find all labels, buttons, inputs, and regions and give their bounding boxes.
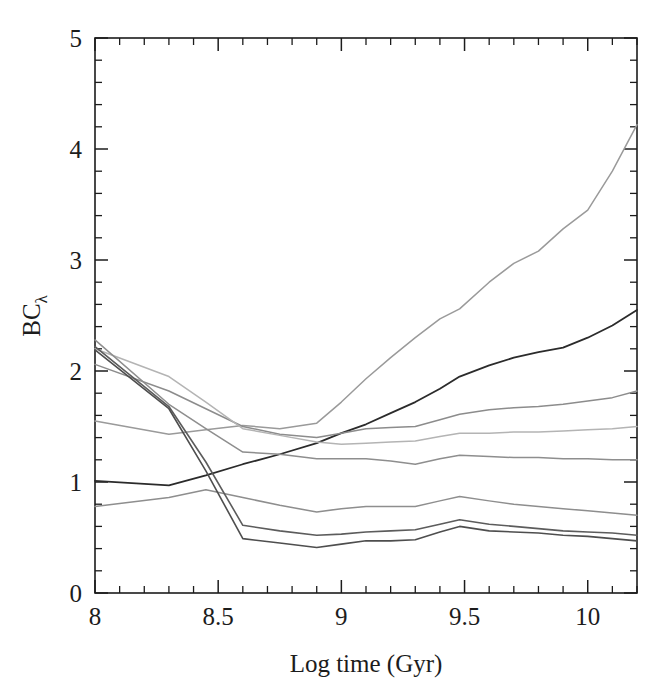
x-axis-label: Log time (Gyr): [290, 650, 443, 678]
y-tick-label: 3: [70, 247, 83, 274]
x-tick-label: 10: [575, 603, 600, 630]
figure-container: 88.599.510 012345 Log time (Gyr) BCλ: [0, 0, 665, 689]
y-tick-label: 2: [70, 358, 83, 385]
series-line: [95, 364, 637, 437]
x-tick-labels: 88.599.510: [89, 603, 600, 630]
y-axis-label: BCλ: [18, 294, 51, 336]
series-line: [95, 340, 637, 464]
y-axis-label-group: BCλ: [18, 294, 51, 336]
series-line: [95, 125, 637, 435]
y-tick-label: 0: [70, 580, 83, 607]
series-line: [95, 349, 637, 444]
plot-frame: [95, 38, 637, 593]
y-tick-label: 4: [70, 136, 83, 163]
axis-ticks: [95, 38, 637, 593]
plot-svg: 88.599.510 012345 Log time (Gyr) BCλ: [0, 0, 665, 689]
x-tick-label: 9: [335, 603, 348, 630]
y-tick-labels: 012345: [70, 25, 83, 607]
series-line: [95, 490, 637, 516]
data-series-layer: [95, 125, 637, 548]
x-tick-label: 9.5: [449, 603, 480, 630]
y-tick-label: 5: [70, 25, 83, 52]
x-tick-label: 8.5: [203, 603, 234, 630]
y-tick-label: 1: [70, 469, 83, 496]
x-tick-label: 8: [89, 603, 102, 630]
